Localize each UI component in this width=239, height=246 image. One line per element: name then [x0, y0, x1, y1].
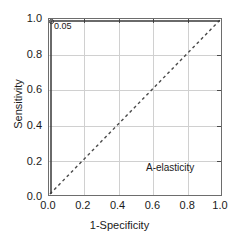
ytick-label-0: 0.0	[6, 190, 42, 202]
y-axis-title: Sensitivity	[12, 44, 24, 164]
ytick-label-5: 1.0	[6, 12, 42, 24]
roc-curve-line	[51, 21, 220, 194]
xtick-mark-1.0	[221, 195, 222, 196]
xtick-mark-0.0	[49, 195, 50, 196]
xtick-mark-0.8	[188, 195, 189, 196]
threshold-value-label: 0.05	[54, 21, 72, 32]
xtick-mark-0.2	[84, 195, 85, 196]
roc-curve-figure: 0.05 A-elasticity 0.0 0.2 0.4 0.6 0.8 1.…	[0, 0, 239, 246]
reference-diagonal-line	[50, 20, 220, 194]
plot-curves	[49, 19, 221, 195]
xtick-label-4: 0.8	[172, 199, 202, 211]
xtick-label-3: 0.6	[137, 199, 167, 211]
xtick-mark-0.6	[153, 195, 154, 196]
xtick-label-2: 0.4	[103, 199, 133, 211]
plot-area	[48, 18, 222, 196]
xtick-mark-0.4	[119, 195, 120, 196]
x-axis-title: 1-Specificity	[0, 219, 239, 231]
series-annotation-label: A-elasticity	[146, 162, 194, 174]
xtick-label-1: 0.2	[68, 199, 98, 211]
xtick-label-5: 1.0	[205, 199, 235, 211]
